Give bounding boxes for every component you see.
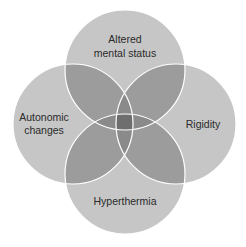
label-altered: Altered — [108, 33, 141, 45]
label-hyperthermia: Hyperthermia — [93, 195, 156, 207]
venn-diagram: Altered mental status Autonomic changes … — [0, 0, 246, 247]
label-autonomic: Autonomic — [19, 111, 69, 123]
label-mental-status: mental status — [94, 47, 156, 59]
label-rigidity: Rigidity — [186, 118, 221, 130]
label-changes: changes — [24, 124, 64, 136]
